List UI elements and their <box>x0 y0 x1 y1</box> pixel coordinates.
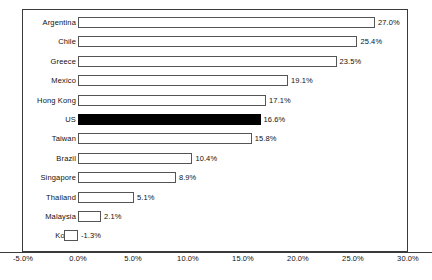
bar-row: Korea-1.3% <box>0 226 432 245</box>
bar-row: US16.6% <box>0 110 432 129</box>
category-label-greece: Greece <box>0 52 76 71</box>
category-label-malaysia: Malaysia <box>0 207 76 226</box>
x-axis-line <box>0 252 432 253</box>
x-tick-label: 20.0% <box>268 254 328 263</box>
bar-us <box>78 114 261 125</box>
category-label-thailand: Thailand <box>0 188 76 207</box>
bar-row: Brazil10.4% <box>0 149 432 168</box>
value-label-argentina: 27.0% <box>378 13 400 32</box>
bar-argentina <box>78 17 375 28</box>
x-tick-label: 10.0% <box>158 254 218 263</box>
value-label-korea: -1.3% <box>81 226 101 245</box>
bar-singapore <box>78 172 176 183</box>
x-tick-label: 15.0% <box>213 254 273 263</box>
bar-chile <box>78 36 357 47</box>
value-label-us: 16.6% <box>264 110 286 129</box>
category-label-argentina: Argentina <box>0 13 76 32</box>
category-label-taiwan: Taiwan <box>0 129 76 148</box>
bar-hong-kong <box>78 95 266 106</box>
value-label-mexico: 19.1% <box>291 71 313 90</box>
x-tick-label: -5.0% <box>0 254 53 263</box>
bar-row: Malaysia2.1% <box>0 207 432 226</box>
value-label-hong-kong: 17.1% <box>269 91 291 110</box>
bar-rows-container: Argentina27.0%Chile25.4%Greece23.5%Mexic… <box>0 0 432 280</box>
bar-row: Thailand5.1% <box>0 188 432 207</box>
bar-taiwan <box>78 133 252 144</box>
value-label-chile: 25.4% <box>360 32 382 51</box>
bar-chart: Argentina27.0%Chile25.4%Greece23.5%Mexic… <box>0 0 432 280</box>
bar-mexico <box>78 75 288 86</box>
bar-korea <box>64 230 78 241</box>
value-label-brazil: 10.4% <box>195 149 217 168</box>
value-label-malaysia: 2.1% <box>104 207 122 226</box>
bar-row: Hong Kong17.1% <box>0 91 432 110</box>
x-tick-label: 5.0% <box>103 254 163 263</box>
x-tick-label: 30.0% <box>378 254 432 263</box>
x-tick-label: 25.0% <box>323 254 383 263</box>
value-label-taiwan: 15.8% <box>255 129 277 148</box>
category-label-singapore: Singapore <box>0 168 76 187</box>
bar-malaysia <box>78 211 101 222</box>
category-label-mexico: Mexico <box>0 71 76 90</box>
value-label-thailand: 5.1% <box>137 188 155 207</box>
bar-row: Chile25.4% <box>0 32 432 51</box>
bar-thailand <box>78 192 134 203</box>
category-label-us: US <box>0 110 76 129</box>
value-label-singapore: 8.9% <box>179 168 197 187</box>
value-label-greece: 23.5% <box>340 52 362 71</box>
x-axis-tick-labels: -5.0%0.0%5.0%10.0%15.0%20.0%25.0%30.0% <box>0 254 432 270</box>
bar-brazil <box>78 153 192 164</box>
bar-row: Taiwan15.8% <box>0 129 432 148</box>
bar-row: Mexico19.1% <box>0 71 432 90</box>
category-label-hong-kong: Hong Kong <box>0 91 76 110</box>
bar-row: Argentina27.0% <box>0 13 432 32</box>
bar-greece <box>78 56 337 67</box>
category-label-brazil: Brazil <box>0 149 76 168</box>
bar-row: Singapore8.9% <box>0 168 432 187</box>
bar-row: Greece23.5% <box>0 52 432 71</box>
category-label-chile: Chile <box>0 32 76 51</box>
x-tick-label: 0.0% <box>48 254 108 263</box>
